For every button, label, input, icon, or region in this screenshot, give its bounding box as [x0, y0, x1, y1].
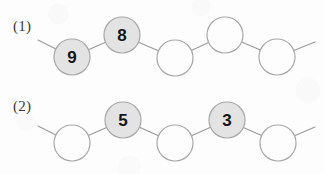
- chain-node-value: 8: [117, 26, 126, 45]
- chain-link-4: [243, 127, 261, 135]
- worksheet-canvas: (1) (2) 9853: [0, 0, 324, 174]
- chain-node-blank[interactable]: [259, 39, 295, 75]
- chain-node-blank[interactable]: [157, 40, 193, 76]
- chain-node-value: 5: [118, 111, 127, 130]
- chain-link-2: [139, 42, 159, 51]
- chain-node-blank[interactable]: [54, 125, 90, 161]
- chain-link-1: [88, 127, 106, 135]
- number-chain-diagram: 9853: [0, 0, 324, 174]
- chain-node-blank[interactable]: [207, 17, 243, 53]
- chain-stub-right: [294, 42, 315, 50]
- chain-link-4: [242, 42, 261, 50]
- chain-node-value: 9: [67, 48, 76, 67]
- chain-link-1: [88, 42, 105, 50]
- chain-row-1: 98: [38, 17, 315, 76]
- chain-node-blank[interactable]: [157, 125, 193, 161]
- chain-row-2: 53: [38, 102, 315, 161]
- chain-node-blank[interactable]: [260, 125, 296, 161]
- chain-stub-right: [295, 127, 315, 136]
- chain-stub-left: [38, 40, 56, 49]
- chain-link-2: [139, 127, 158, 135]
- chain-stub-left: [38, 126, 56, 135]
- chain-link-3: [191, 127, 210, 135]
- chain-node-value: 3: [222, 111, 231, 130]
- chain-link-3: [191, 43, 208, 51]
